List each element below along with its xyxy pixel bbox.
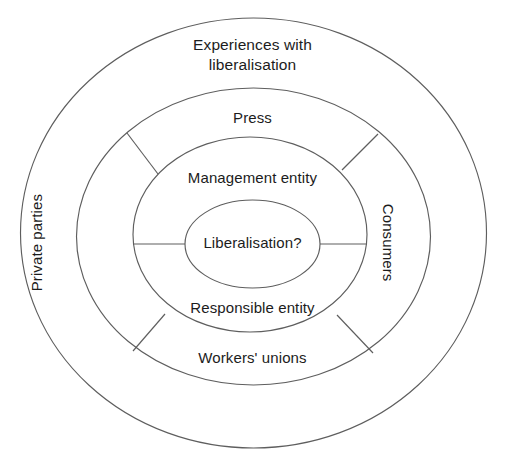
outer-ring-label: Experiences with liberalisation bbox=[0, 35, 505, 75]
concentric-ring-diagram: Experiences with liberalisation Press Ma… bbox=[0, 0, 505, 464]
middle-ring-top-label: Press bbox=[0, 108, 505, 127]
middle-ring-right-label: Consumers bbox=[378, 163, 397, 323]
divider-upper-right bbox=[342, 134, 378, 170]
divider-lower-left bbox=[133, 314, 165, 351]
middle-ring-left-label: Private parties bbox=[27, 163, 46, 323]
inner-ring-top-label: Management entity bbox=[0, 168, 505, 187]
core-label: Liberalisation? bbox=[0, 233, 505, 252]
inner-ring-bottom-label: Responsible entity bbox=[0, 298, 505, 317]
middle-ring-bottom-label: Workers' unions bbox=[0, 348, 505, 367]
